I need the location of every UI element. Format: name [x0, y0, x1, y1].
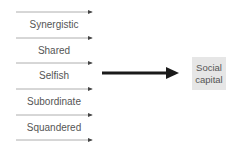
input-label-selfish: Selfish [16, 70, 92, 82]
input-label-synergistic: Synergistic [16, 19, 92, 31]
input-label-squandered: Squandered [16, 122, 92, 134]
social-capital-box: Social capital [192, 57, 226, 90]
social-capital-diagram: Synergistic Shared Selfish Subordinate S… [0, 0, 236, 154]
input-label-shared: Shared [16, 45, 92, 57]
output-line-1: Social [196, 62, 222, 74]
thick-arrow-icon [102, 67, 179, 79]
input-label-subordinate: Subordinate [16, 96, 92, 108]
output-line-2: capital [195, 74, 222, 86]
